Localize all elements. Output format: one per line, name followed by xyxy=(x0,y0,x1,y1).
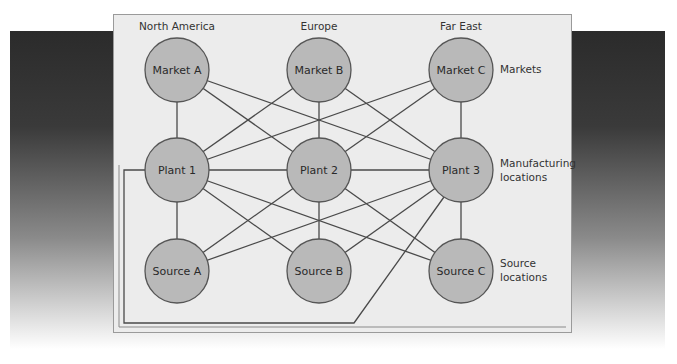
tier-label-manufacturing-line1: Manufacturing xyxy=(500,157,576,169)
node-label-source-a: Source A xyxy=(153,265,202,278)
region-label-north-america: North America xyxy=(139,20,215,32)
node-label-plant-1: Plant 1 xyxy=(158,164,196,177)
node-label-plant-2: Plant 2 xyxy=(300,164,338,177)
node-label-market-b: Market B xyxy=(295,64,344,77)
tier-label-markets: Markets xyxy=(500,63,542,75)
node-label-source-c: Source C xyxy=(437,265,486,278)
node-label-market-c: Market C xyxy=(437,64,486,77)
tier-label-manufacturing-line2: locations xyxy=(500,171,547,183)
node-label-plant-3: Plant 3 xyxy=(442,164,480,177)
tier-label-source-line2: locations xyxy=(500,271,547,283)
region-label-europe: Europe xyxy=(301,20,338,32)
node-label-source-b: Source B xyxy=(295,265,344,278)
node-label-market-a: Market A xyxy=(153,64,202,77)
region-label-far-east: Far East xyxy=(440,20,482,32)
tier-label-source-line1: Source xyxy=(500,257,536,269)
network-diagram: North America Europe Far East Market A M… xyxy=(0,0,677,364)
